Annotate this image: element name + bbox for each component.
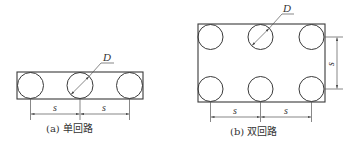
spacing-label: s [53, 102, 57, 113]
conductor-circle [299, 25, 324, 50]
figure-b-double-circuit: D s s s (b) 双回路 [198, 2, 343, 137]
conductor-circle [198, 77, 223, 102]
leader-line [269, 14, 282, 29]
spacing-label: s [233, 105, 237, 116]
conductor-circle [198, 25, 223, 50]
spacing-label: s [284, 105, 288, 116]
conductor-circle [248, 77, 273, 102]
conductor-circle [299, 77, 324, 102]
diameter-label: D [102, 51, 111, 63]
conductor-circle [18, 73, 44, 99]
spacing-label: s [102, 102, 106, 113]
conductor-circle [117, 73, 143, 99]
figure-a-single-circuit: D s s (a) 单回路 [17, 51, 143, 134]
figure-caption: (a) 单回路 [46, 122, 93, 134]
conductor-arrangement-diagram: D s s (a) 单回路 D s s [0, 0, 351, 150]
figure-caption: (b) 双回路 [230, 125, 277, 137]
diameter-label: D [282, 2, 291, 14]
diameter-arrow [252, 29, 269, 46]
vertical-spacing-label: s [325, 62, 336, 66]
leader-line [89, 63, 101, 77]
diameter-arrow [71, 77, 89, 95]
